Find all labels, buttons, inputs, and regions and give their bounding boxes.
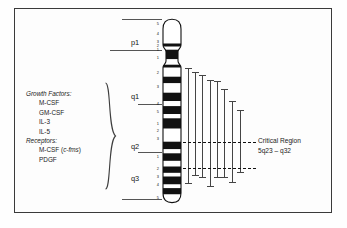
figure-panel: Growth Factors: M-CSF GM-CSF IL-3 IL-5 R… xyxy=(0,0,347,228)
deletion-bars-group xyxy=(0,0,347,228)
deletion-bar-stem-4 xyxy=(210,80,211,186)
deletion-bar-cap-bottom-8 xyxy=(237,172,244,173)
deletion-bar-cap-bottom-1 xyxy=(185,183,192,184)
deletion-bar-cap-bottom-5 xyxy=(214,177,221,178)
deletion-bar-cap-bottom-7 xyxy=(229,182,236,183)
deletion-bar-cap-bottom-3 xyxy=(199,177,206,178)
critical-region-caption-line1: Critical Region xyxy=(258,136,301,146)
deletion-bar-stem-5 xyxy=(217,81,218,177)
deletion-bar-cap-bottom-4 xyxy=(207,186,214,187)
deletion-bar-stem-3 xyxy=(202,75,203,177)
critical-region-line-upper xyxy=(178,142,256,143)
deletion-bar-stem-2 xyxy=(195,72,196,175)
deletion-bar-stem-6 xyxy=(224,89,225,177)
deletion-bar-stem-1 xyxy=(188,68,189,183)
deletion-bar-cap-bottom-2 xyxy=(192,175,199,176)
critical-region-caption-line2: 5q23 – q32 xyxy=(258,146,301,156)
deletion-bar-cap-bottom-6 xyxy=(221,177,228,178)
critical-region-line-lower xyxy=(178,168,256,169)
critical-region-caption: Critical Region 5q23 – q32 xyxy=(258,136,301,155)
